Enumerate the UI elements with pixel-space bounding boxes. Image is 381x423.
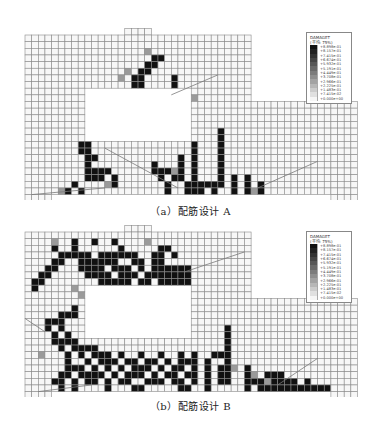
mesh-element bbox=[351, 372, 358, 379]
damaged-element bbox=[244, 181, 251, 188]
mesh-element bbox=[78, 272, 85, 279]
mesh-element bbox=[65, 95, 72, 102]
mesh-element bbox=[205, 232, 212, 239]
mesh-element bbox=[225, 88, 232, 95]
mesh-element bbox=[171, 68, 178, 75]
mesh-element bbox=[38, 155, 45, 162]
mesh-element bbox=[304, 121, 311, 128]
damaged-element bbox=[205, 181, 212, 188]
mesh-element bbox=[205, 48, 212, 55]
damaged-element bbox=[165, 372, 172, 379]
mesh-element bbox=[211, 332, 218, 339]
mesh-element bbox=[218, 102, 225, 109]
damaged-element bbox=[111, 252, 118, 259]
legend-entries: +8.898e-01+8.157e-01+7.415e-01+6.674e-01… bbox=[310, 244, 349, 300]
mesh-element bbox=[338, 108, 345, 115]
mesh-element bbox=[271, 345, 278, 352]
mesh-element bbox=[238, 312, 245, 319]
mesh-element bbox=[238, 259, 245, 266]
mesh-element bbox=[151, 181, 158, 188]
damaged-element bbox=[225, 325, 232, 332]
damaged-element bbox=[264, 372, 271, 379]
mesh-element bbox=[72, 259, 79, 266]
mesh-element bbox=[45, 55, 52, 62]
mesh-element bbox=[38, 128, 45, 135]
mesh-element bbox=[111, 35, 118, 42]
mesh-element bbox=[318, 141, 325, 148]
damaged-element bbox=[225, 332, 232, 339]
mesh-element bbox=[244, 88, 251, 95]
mesh-element bbox=[205, 141, 212, 148]
mesh-element bbox=[78, 35, 85, 42]
mesh-element bbox=[72, 55, 79, 62]
mesh-element bbox=[72, 292, 79, 299]
mesh-element bbox=[52, 352, 59, 359]
damaged-element bbox=[78, 352, 85, 359]
mesh-element bbox=[125, 239, 132, 246]
mesh-element bbox=[211, 285, 218, 292]
mesh-element bbox=[65, 299, 72, 306]
damaged-element bbox=[85, 175, 92, 182]
damaged-element bbox=[105, 252, 112, 259]
damaged-element bbox=[52, 338, 59, 345]
mesh-element bbox=[211, 42, 218, 49]
mesh-element bbox=[311, 365, 318, 372]
mesh-element bbox=[158, 62, 165, 69]
mesh-element bbox=[324, 378, 331, 385]
mesh-element bbox=[278, 155, 285, 162]
mesh-element bbox=[72, 121, 79, 128]
partial-damage-element bbox=[264, 378, 271, 385]
mesh-element bbox=[52, 325, 59, 332]
damaged-element bbox=[72, 338, 79, 345]
mesh-element bbox=[92, 75, 99, 82]
damaged-element bbox=[78, 365, 85, 372]
mesh-element bbox=[111, 82, 118, 89]
mesh-element bbox=[65, 168, 72, 175]
mesh-element bbox=[344, 128, 351, 135]
mesh-element bbox=[205, 245, 212, 252]
mesh-element bbox=[238, 365, 245, 372]
mesh-element bbox=[52, 121, 59, 128]
mesh-element bbox=[238, 385, 245, 392]
mesh-element bbox=[231, 305, 238, 312]
mesh-element bbox=[45, 292, 52, 299]
mesh-element bbox=[118, 62, 125, 69]
mesh-element bbox=[231, 55, 238, 62]
mesh-element bbox=[25, 148, 32, 155]
mesh-element bbox=[238, 48, 245, 55]
mesh-element bbox=[52, 155, 59, 162]
mesh-element bbox=[264, 365, 271, 372]
mesh-element bbox=[191, 75, 198, 82]
damaged-element bbox=[85, 345, 92, 352]
mesh-element bbox=[131, 68, 138, 75]
mesh-element bbox=[38, 62, 45, 69]
mesh-element bbox=[351, 121, 358, 128]
mesh-element bbox=[191, 305, 198, 312]
mesh-element bbox=[191, 385, 198, 392]
mesh-element bbox=[118, 338, 125, 345]
mesh-element bbox=[318, 148, 325, 155]
damaged-element bbox=[38, 279, 45, 286]
mesh-element bbox=[125, 365, 132, 372]
mesh-element bbox=[231, 318, 238, 325]
mesh-element bbox=[304, 155, 311, 162]
mesh-element bbox=[304, 338, 311, 345]
damaged-element bbox=[165, 265, 172, 272]
mesh-element bbox=[125, 225, 132, 232]
mesh-element bbox=[52, 135, 59, 142]
mesh-element bbox=[32, 265, 39, 272]
mesh-element bbox=[351, 345, 358, 352]
mesh-element bbox=[284, 115, 291, 122]
mesh-element bbox=[138, 345, 145, 352]
damaged-element bbox=[125, 252, 132, 259]
mesh-element bbox=[304, 128, 311, 135]
mesh-element bbox=[45, 48, 52, 55]
mesh-element bbox=[238, 95, 245, 102]
mesh-element bbox=[331, 378, 338, 385]
mesh-element bbox=[25, 135, 32, 142]
mesh-element bbox=[32, 55, 39, 62]
mesh-element bbox=[331, 318, 338, 325]
mesh-element bbox=[138, 55, 145, 62]
mesh-element bbox=[211, 161, 218, 168]
mesh-element bbox=[324, 332, 331, 339]
